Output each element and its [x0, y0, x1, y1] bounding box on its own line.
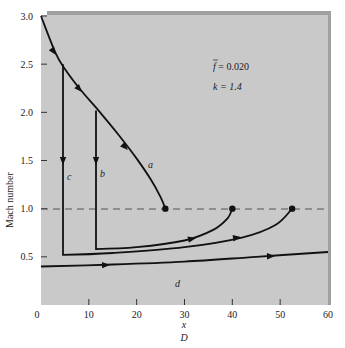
friction-annotation: f = 0.020	[213, 61, 249, 72]
friction-symbol: f	[213, 61, 217, 72]
y-tick-label: 1.5	[21, 155, 34, 166]
k-annotation: k = 1.4	[213, 81, 242, 92]
x-tick-label: 0	[35, 309, 40, 320]
choke-point-marker	[229, 205, 235, 211]
choke-point-marker	[289, 205, 295, 211]
x-axis-label-denominator: D	[179, 332, 188, 343]
y-tick-label: 1.0	[21, 203, 34, 214]
curve-label-b: b	[100, 168, 105, 179]
choke-point-marker	[162, 205, 168, 211]
y-tick-label: 2.0	[21, 107, 34, 118]
curve-label-a: a	[148, 159, 153, 170]
curve-label-c: c	[67, 171, 72, 182]
y-tick-label: 3.0	[21, 11, 34, 22]
x-tick-label: 20	[132, 309, 142, 320]
chart: 0.51.01.52.02.53.0 0102030405060 abcd f …	[0, 0, 345, 348]
x-tick-label: 60	[323, 309, 333, 320]
x-tick-label: 40	[227, 309, 237, 320]
y-tick-label: 0.5	[21, 251, 34, 262]
x-tick-label: 50	[275, 309, 285, 320]
friction-value: = 0.020	[218, 61, 249, 72]
x-tick-label: 10	[84, 309, 94, 320]
y-axis-label: Mach number	[4, 172, 15, 228]
y-tick-label: 2.5	[21, 59, 34, 70]
x-axis-label-numerator: x	[181, 319, 187, 330]
